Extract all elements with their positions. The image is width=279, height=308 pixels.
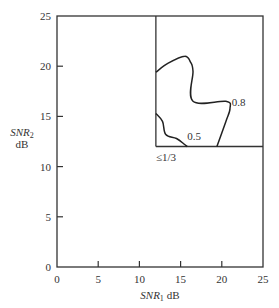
annotation-label: 0.5	[187, 130, 201, 142]
x-tick-label: 5	[95, 273, 101, 285]
x-axis-label-sub: 1	[160, 294, 164, 303]
y-axis-label-unit: dB	[16, 138, 29, 150]
y-tick-label: 15	[40, 110, 52, 122]
x-tick-label: 15	[175, 273, 187, 285]
plot-frame	[57, 16, 263, 267]
x-axis-label-unit: dB	[167, 289, 180, 301]
y-axis-label-main: SNR	[10, 126, 30, 138]
x-tick-label: 10	[134, 273, 146, 285]
x-tick-label: 20	[216, 273, 228, 285]
annotation-label: 0.8	[232, 96, 246, 108]
plot-axes	[57, 16, 263, 267]
region-boundary	[156, 16, 263, 147]
y-axis-label-sub: 2	[30, 131, 34, 140]
y-tick-label: 5	[46, 211, 52, 223]
x-tick-label: 25	[258, 273, 270, 285]
y-tick-label: 0	[46, 261, 52, 273]
contour-0-5	[156, 113, 187, 146]
y-tick-label: 10	[40, 161, 52, 173]
y-tick-label: 25	[40, 10, 52, 22]
annotation-label: ≤1/3	[156, 151, 177, 163]
chart: 05101520250510152025 0.80.5≤1/3 SNR1dB S…	[0, 0, 279, 308]
y-tick-label: 20	[40, 60, 52, 72]
x-tick-label: 0	[54, 273, 60, 285]
x-axis-label: SNR1dB	[140, 289, 179, 303]
x-axis-label-main: SNR	[140, 289, 160, 301]
curve-annotations: 0.80.5≤1/3	[156, 96, 246, 162]
axis-ticks: 05101520250510152025	[40, 10, 269, 285]
